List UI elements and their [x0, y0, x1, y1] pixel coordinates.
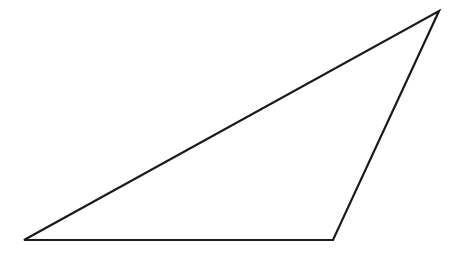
triangle-shape	[24, 11, 439, 240]
diagram-canvas	[0, 0, 456, 278]
